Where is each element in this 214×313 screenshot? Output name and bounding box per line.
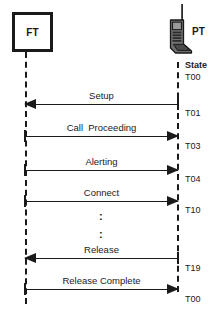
sequence-diagram: FT PT State T00 T01 T03 T04 T10 T19 T00 …: [0, 0, 214, 313]
message-setup-label: Setup: [25, 90, 178, 101]
message-setup-line: [25, 104, 178, 105]
state-label-t00-end: T00: [185, 294, 201, 304]
message-release-line: [25, 258, 178, 259]
message-alerting-line: [25, 170, 178, 171]
message-release-label: Release: [25, 244, 178, 255]
message-connect-line: [25, 201, 178, 202]
message-release-complete-origin-tick: [24, 283, 26, 295]
message-alerting-label: Alerting: [25, 156, 178, 167]
message-alerting-origin-tick: [24, 164, 26, 176]
message-call-proceeding-origin-tick: [24, 130, 26, 142]
message-release-origin-tick: [177, 252, 179, 264]
arrowhead-left-icon: [24, 253, 36, 263]
message-setup-origin-tick: [177, 98, 179, 110]
arrowhead-right-icon: [167, 165, 179, 175]
arrowhead-right-icon: [167, 131, 179, 141]
message-call-proceeding-line: [25, 136, 178, 137]
entity-ft-box: FT: [12, 12, 53, 52]
arrowhead-left-icon: [24, 99, 36, 109]
message-connect-label: Connect: [25, 187, 178, 198]
state-label-initial: T00: [185, 72, 201, 82]
arrowhead-right-icon: [167, 196, 179, 206]
entity-pt-label: PT: [192, 26, 205, 37]
arrowhead-right-icon: [167, 284, 179, 294]
state-column-header: State: [185, 60, 207, 70]
message-release-complete-label: Release Complete: [25, 275, 178, 286]
state-label-t19: T19: [185, 263, 201, 273]
state-label-t10: T10: [185, 205, 201, 215]
message-connect-origin-tick: [24, 195, 26, 207]
state-label-t04: T04: [185, 174, 201, 184]
ellipsis-lower: :: [99, 229, 103, 240]
state-label-t01: T01: [185, 108, 201, 118]
message-release-complete-line: [25, 289, 178, 290]
state-label-t03: T03: [185, 141, 201, 151]
ellipsis-upper: :: [99, 211, 103, 222]
portable-handset-icon: [168, 4, 194, 54]
message-call-proceeding-label: Call Proceeding: [25, 122, 178, 133]
entity-ft-label: FT: [26, 27, 39, 38]
